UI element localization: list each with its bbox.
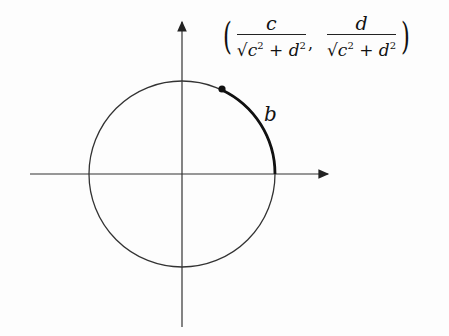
close-paren: ) [401,17,410,55]
point-marker [218,85,225,92]
separator: , [308,34,313,53]
y-numerator: d [355,12,367,34]
x-coordinate-fraction: c √c2 + d2 [237,12,306,61]
x-denominator: √c2 + d2 [237,35,306,61]
y-denominator: √c2 + d2 [327,35,396,61]
x-numerator: c [266,12,277,34]
y-coordinate-fraction: d √c2 + d2 [327,12,396,61]
point-coordinate-label: ( c √c2 + d2 , d √c2 + d2 ) [220,12,413,61]
open-paren: ( [223,17,232,55]
arc-label: b [264,102,277,126]
